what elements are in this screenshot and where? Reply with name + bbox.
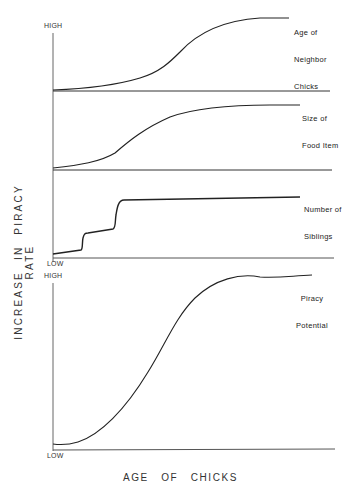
label-siblings: Number of Siblings (304, 187, 342, 250)
label-food-item: Size of Food Item (302, 96, 338, 159)
bottom-low-label: LOW (47, 452, 64, 459)
top-high-label: HIGH (44, 22, 62, 29)
top-low-label: LOW (47, 260, 64, 267)
x-axis-title: AGE OF CHICKS (0, 472, 361, 483)
curve-piracy-potential (53, 275, 312, 445)
curve-neighbor-chicks (53, 18, 289, 90)
bottom-x-axis (53, 449, 335, 450)
label-piracy-potential: Piracy Potential (296, 276, 328, 339)
curve-food-item (53, 105, 300, 168)
label-neighbor-chicks: Age of Neighbor Chicks (294, 10, 327, 100)
y-axis-title: INCREASE IN PIRACY RATE (13, 167, 35, 357)
curve-siblings (53, 197, 300, 254)
bottom-high-label: HIGH (44, 272, 62, 279)
